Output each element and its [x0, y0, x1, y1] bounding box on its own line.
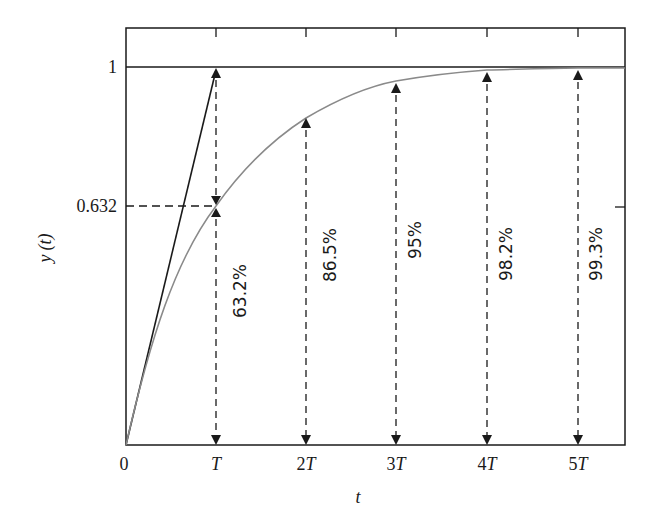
x-tick-0: 0 — [120, 454, 129, 474]
y-axis-label-main: y — [35, 255, 55, 265]
arrow-4T — [482, 72, 492, 445]
x-tick-T: T — [211, 454, 223, 474]
x-axis-label: t — [355, 487, 361, 507]
x-tick-5T: 5T — [568, 454, 589, 474]
x-tick-2T: 2T — [296, 454, 317, 474]
chart-canvas: 63.2% 86.5% 95% 98.2% 99.3% 1 0.632 0 T … — [0, 0, 652, 528]
arrow-3T — [391, 83, 401, 445]
pct-label-2T: 86.5% — [320, 228, 340, 282]
x-tick-3T: 3T — [386, 454, 407, 474]
pct-label-5T: 99.3% — [586, 227, 606, 281]
x-tick-5T-num: 5 — [568, 454, 577, 474]
x-tick-2T-sym: T — [305, 454, 317, 474]
y-tick-0632: 0.632 — [77, 196, 118, 216]
response-curve — [126, 68, 625, 445]
x-tick-5T-sym: T — [577, 454, 589, 474]
pct-label-4T: 98.2% — [496, 227, 516, 281]
arrow-2T — [301, 118, 311, 445]
arrow-T — [211, 68, 221, 445]
x-tick-3T-sym: T — [395, 454, 407, 474]
plot-frame — [126, 28, 625, 445]
y-axis-label: y(t) — [35, 234, 56, 265]
y-tick-1: 1 — [108, 57, 117, 77]
x-tick-3T-num: 3 — [386, 454, 395, 474]
top-ticks — [216, 28, 578, 37]
x-tick-4T-num: 4 — [477, 454, 486, 474]
y-axis-label-arg: (t) — [35, 234, 56, 251]
pct-label-3T: 95% — [405, 221, 425, 259]
arrow-5T — [573, 70, 583, 445]
x-tick-4T-sym: T — [486, 454, 498, 474]
x-tick-4T: 4T — [477, 454, 498, 474]
x-tick-2T-num: 2 — [296, 454, 305, 474]
pct-label-T: 63.2% — [230, 264, 250, 318]
